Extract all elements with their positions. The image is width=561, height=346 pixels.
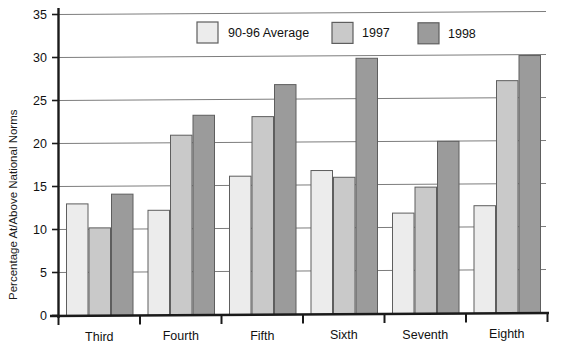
bar-fourth-90-96-average (148, 210, 170, 315)
x-category-label-fourth: Fourth (163, 329, 199, 343)
bar-eighth-1997 (497, 81, 519, 314)
legend-label-1998: 1998 (448, 27, 476, 41)
x-category-label-third: Third (85, 330, 114, 344)
legend-swatch-90-96-average (197, 22, 218, 43)
y-tick-label-20: 20 (33, 137, 47, 151)
y-tick-label-10: 10 (33, 223, 47, 237)
y-tick-label-15: 15 (33, 180, 47, 194)
y-tick-labels: 35 30 25 20 15 10 5 0 (33, 8, 47, 323)
bar-fourth-1998 (193, 115, 215, 315)
chart-legend: 90-96 Average19971998 (197, 22, 476, 44)
bar-eighth-1998 (519, 56, 541, 314)
chart-canvas: Percentage At/Above National Norms 35 30 (0, 0, 561, 346)
x-category-label-eighth: Eighth (489, 327, 524, 341)
legend-label-90-96-average: 90-96 Average (228, 26, 309, 40)
gridline-35 (58, 12, 546, 15)
y-tick-marks (52, 15, 58, 316)
bar-fifth-1998 (275, 85, 297, 315)
bar-fifth-90-96-average (230, 176, 252, 315)
bar-sixth-1998 (356, 58, 378, 314)
bar-third-1998 (112, 194, 134, 315)
gridline-15 (58, 184, 546, 187)
y-axis-title: Percentage At/Above National Norms (7, 109, 19, 300)
x-category-labels: ThirdFourthFifthSixthSeventhEighth (85, 327, 525, 344)
gridline-20 (58, 141, 546, 144)
legend-swatch-1998 (418, 23, 439, 44)
legend-swatch-1997 (332, 22, 353, 43)
bar-chart-figure: Percentage At/Above National Norms 35 30 (0, 0, 561, 346)
bar-eighth-90-96-average (474, 206, 496, 314)
bar-sixth-1997 (334, 177, 356, 314)
bar-fourth-1997 (171, 135, 193, 315)
y-tick-label-25: 25 (33, 94, 47, 108)
x-category-label-fifth: Fifth (250, 329, 274, 343)
x-category-label-seventh: Seventh (402, 328, 448, 342)
y-tick-label-35: 35 (33, 8, 47, 22)
bar-sixth-90-96-average (311, 171, 333, 315)
y-tick-label-30: 30 (33, 51, 47, 65)
bar-seventh-1998 (438, 141, 460, 313)
bar-third-90-96-average (67, 204, 89, 316)
bar-fifth-1997 (252, 117, 274, 315)
x-category-label-sixth: Sixth (330, 328, 358, 342)
gridline-25 (58, 98, 546, 101)
bar-third-1997 (89, 228, 111, 316)
bar-seventh-1997 (415, 187, 437, 314)
legend-label-1997: 1997 (362, 26, 390, 40)
y-tick-label-0: 0 (40, 309, 47, 323)
gridline-30 (58, 55, 546, 58)
y-tick-label-5: 5 (40, 266, 47, 280)
bar-seventh-90-96-average (393, 213, 415, 314)
